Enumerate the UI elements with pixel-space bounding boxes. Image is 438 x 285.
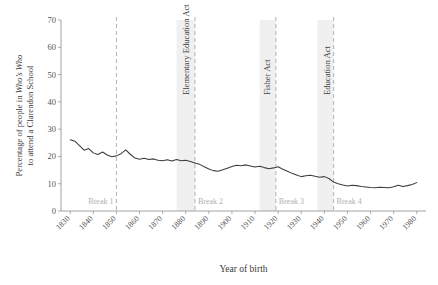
annotation-label-3: Education Act (322, 45, 332, 95)
x-tick-label: 1980 (400, 214, 418, 232)
annotation-label-2: Fisher Act (262, 59, 272, 95)
x-tick-label: 1890 (193, 214, 211, 232)
x-tick-label: 1930 (285, 214, 303, 232)
y-tick-label: 30 (48, 124, 57, 134)
x-tick-label: 1850 (100, 214, 118, 232)
x-tick-label: 1830 (54, 214, 72, 232)
break-label-3: Break 3 (279, 197, 304, 206)
break-label-1: Break 1 (88, 197, 113, 206)
y-tick-label: 50 (48, 70, 57, 80)
break-label-2: Break 2 (198, 197, 223, 206)
y-tick-label: 70 (48, 15, 57, 25)
x-tick-label: 1920 (262, 214, 280, 232)
x-tick-label: 1870 (146, 214, 164, 232)
chart-svg: 0102030405060701830184018501860187018801… (0, 0, 438, 285)
data-series-line (70, 140, 417, 188)
y-tick-label: 40 (48, 97, 57, 107)
x-tick-label: 1960 (354, 214, 372, 232)
break-label-4: Break 4 (337, 197, 362, 206)
y-tick-label: 20 (48, 151, 57, 161)
y-tick-label: 60 (48, 42, 57, 52)
x-tick-label: 1970 (377, 214, 395, 232)
y-tick-label: 10 (48, 179, 57, 189)
x-tick-label: 1880 (169, 214, 187, 232)
x-tick-label: 1950 (331, 214, 349, 232)
annotation-band (260, 20, 276, 211)
y-axis-title-plain: Percentage of people in (14, 93, 24, 176)
x-tick-label: 1900 (216, 214, 234, 232)
y-tick-label: 0 (52, 206, 56, 216)
x-axis-title: Year of birth (219, 264, 267, 274)
y-axis-title-line2: to attend a Clarendon School (25, 65, 35, 165)
x-tick-label: 1840 (77, 214, 95, 232)
x-tick-label: 1860 (123, 214, 141, 232)
y-axis-title-italic: Who’s Who (14, 54, 24, 93)
x-tick-label: 1940 (308, 214, 326, 232)
chart-figure: 0102030405060701830184018501860187018801… (0, 0, 438, 285)
x-tick-label: 1910 (239, 214, 257, 232)
annotation-label-1: Elementary Education Act (181, 4, 191, 95)
y-axis-title-line1: Percentage of people in Who’s Who (14, 54, 24, 177)
